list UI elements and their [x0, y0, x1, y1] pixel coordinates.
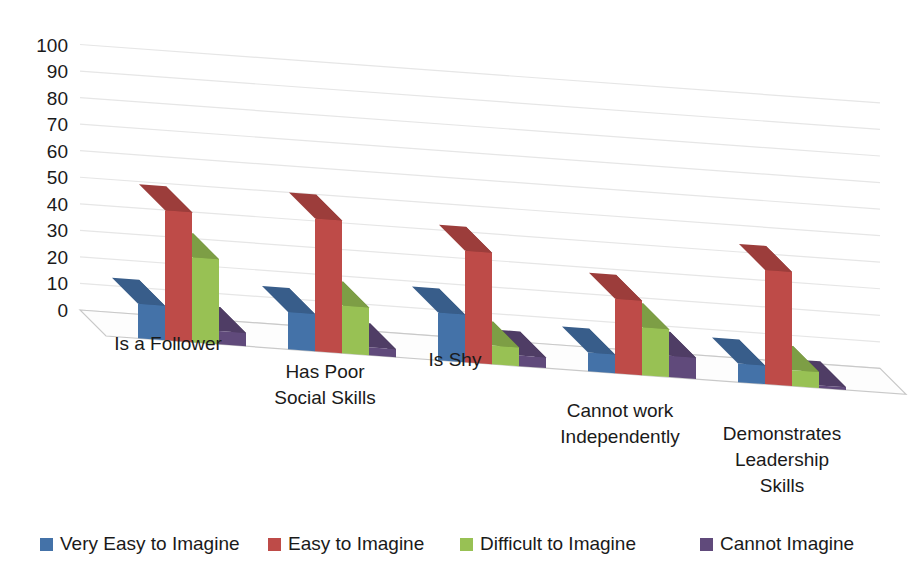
- y-tick-label: 10: [47, 273, 68, 294]
- gridline-100: [80, 45, 880, 103]
- y-tick-label: 40: [47, 194, 68, 215]
- legend-swatch: [268, 538, 281, 551]
- bar-front-face: [519, 356, 546, 369]
- gridline-80: [80, 98, 880, 156]
- y-tick-label: 20: [47, 247, 68, 268]
- bar-front-face: [765, 270, 792, 386]
- bar-front-face: [342, 305, 369, 355]
- legend-item: Easy to Imagine: [268, 533, 424, 554]
- chart-container: 1009080706050403020100 Is a FollowerHas …: [0, 0, 912, 586]
- legend-label: Very Easy to Imagine: [60, 533, 240, 554]
- bar-front-face: [465, 251, 492, 364]
- gridline-50: [80, 177, 880, 235]
- bar-front-face: [738, 364, 765, 385]
- legend-swatch: [40, 538, 53, 551]
- y-tick-label: 60: [47, 141, 68, 162]
- gridline-70: [80, 124, 880, 182]
- gridline-60: [80, 151, 880, 209]
- bar-front-face: [315, 219, 342, 354]
- bar-front-face: [588, 353, 615, 374]
- category-label: Is Shy: [429, 349, 482, 370]
- y-tick-label: 50: [47, 167, 68, 188]
- legend: Very Easy to ImagineEasy to ImagineDiffi…: [40, 533, 854, 554]
- legend-label: Cannot Imagine: [720, 533, 854, 554]
- bar-top-face: [412, 286, 465, 314]
- bar-front-face: [192, 257, 219, 344]
- category-label: Has PoorSocial Skills: [274, 361, 375, 408]
- bar-front-face: [165, 210, 192, 342]
- legend-swatch: [460, 538, 473, 551]
- bar-front-face: [642, 327, 669, 377]
- bar-top-face: [589, 273, 642, 301]
- bar-front-face: [288, 312, 315, 351]
- y-tick-label: 0: [57, 300, 68, 321]
- legend-item: Very Easy to Imagine: [40, 533, 240, 554]
- legend-label: Easy to Imagine: [288, 533, 424, 554]
- bar-top-face: [112, 278, 165, 306]
- y-axis-tick-labels: 1009080706050403020100: [36, 35, 68, 322]
- bar-chart-3d: 1009080706050403020100 Is a FollowerHas …: [0, 0, 912, 586]
- bar-front-face: [792, 370, 819, 388]
- legend-item: Cannot Imagine: [700, 533, 854, 554]
- y-tick-label: 80: [47, 88, 68, 109]
- bar-front-face: [669, 356, 696, 379]
- y-tick-label: 90: [47, 61, 68, 82]
- legend-swatch: [700, 538, 713, 551]
- gridline-90: [80, 71, 880, 129]
- bar-front-face: [492, 346, 519, 367]
- y-tick-label: 30: [47, 220, 68, 241]
- category-label: DemonstratesLeadershipSkills: [723, 423, 841, 496]
- y-tick-label: 70: [47, 114, 68, 135]
- category-label: Is a Follower: [114, 333, 222, 354]
- legend-label: Difficult to Imagine: [480, 533, 636, 554]
- legend-item: Difficult to Imagine: [460, 533, 636, 554]
- bar-top-face: [739, 244, 792, 272]
- category-label: Cannot workIndependently: [560, 400, 680, 447]
- bar-top-face: [289, 193, 342, 221]
- bar-top-face: [439, 225, 492, 253]
- y-tick-label: 100: [36, 35, 68, 56]
- bar-front-face: [615, 299, 642, 375]
- bar-front-face: [219, 331, 246, 346]
- bar-top-face: [139, 184, 192, 212]
